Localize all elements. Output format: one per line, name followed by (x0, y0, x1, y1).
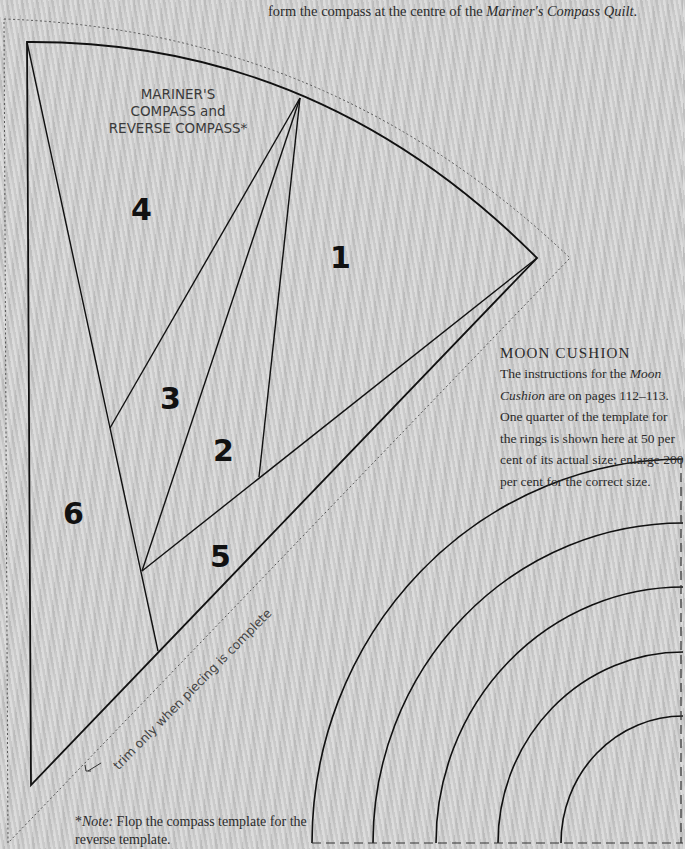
moon-body-text-1: The instructions for the (500, 366, 630, 381)
intro-text: form the compass at the centre of the Ma… (268, 3, 637, 20)
compass-line-p-e (110, 98, 300, 428)
intro-text-plain: form the compass at the centre of the (268, 3, 486, 19)
compass-seam-allowance-outline (4, 19, 570, 843)
compass-line-c-t (142, 258, 537, 571)
moon-cushion-heading: Moon Cushion (500, 343, 685, 363)
moon-cushion-body: The instructions for the Moon Cushion ar… (500, 363, 685, 492)
footnote-asterisk: * (75, 814, 82, 829)
moon-cushion-block: Moon Cushion The instructions for the Mo… (500, 343, 685, 492)
intro-text-italic: Mariner's Compass Quilt (486, 3, 633, 19)
piece-label-3: 3 (160, 384, 181, 414)
piece-label-4: 4 (131, 195, 152, 225)
piece-label-2: 2 (213, 436, 234, 466)
footnote: *Note: Flop the compass template for the… (75, 813, 315, 849)
piece-label-1: 1 (330, 243, 351, 273)
ring-4 (498, 652, 683, 843)
compass-template-title: MARINER'S COMPASS and REVERSE COMPASS* (78, 86, 278, 137)
ring-2 (373, 523, 683, 843)
title-line-2: COMPASS and (78, 103, 278, 120)
piece-label-5: 5 (210, 542, 231, 572)
moon-cushion-fold-lines (312, 459, 683, 843)
ring-1 (312, 459, 683, 843)
compass-line-p-f (259, 98, 300, 477)
trim-arrow-icon (85, 763, 101, 771)
compass-line-p-c (142, 98, 300, 571)
ring-3 (436, 587, 683, 843)
piece-label-6: 6 (63, 499, 84, 529)
moon-cushion-rings (312, 459, 683, 843)
footnote-label: Note: (82, 814, 113, 829)
title-line-1: MARINER'S (78, 86, 278, 103)
title-line-3: REVERSE COMPASS* (78, 120, 278, 137)
intro-text-suffix: . (634, 3, 638, 19)
ring-5 (561, 716, 683, 843)
